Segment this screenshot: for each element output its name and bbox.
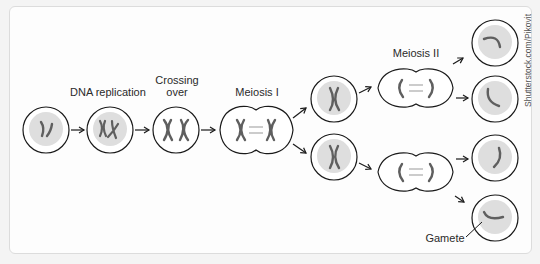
label-meiosis-1: Meiosis I: [227, 86, 287, 98]
gamete-cell-4: [472, 195, 518, 241]
meiosis-diagram: [0, 0, 540, 264]
arrow-icon: [359, 163, 371, 169]
arrow-icon: [455, 196, 464, 202]
arrow-icon: [453, 58, 463, 64]
meiosis-2-cell-top: [378, 69, 453, 107]
label-dna-replication: DNA replication: [70, 86, 146, 98]
gamete-cell-1: [472, 20, 518, 66]
label-crossing-over-line2: over: [152, 86, 202, 98]
label-crossing-over-line1: Crossing: [152, 74, 202, 86]
arrow-icon: [359, 87, 371, 93]
daughter-cell-top: [311, 76, 357, 122]
meiosis-1-cell: [220, 106, 293, 153]
daughter-cell-bottom: [311, 134, 357, 180]
dna-replication-cell: [87, 107, 133, 153]
label-meiosis-2: Meiosis II: [386, 47, 446, 59]
gamete-cell-3: [472, 135, 518, 181]
arrow-icon: [293, 108, 306, 118]
credit-watermark: Shutterstock.com/Pikovit: [523, 14, 533, 107]
label-crossing-over: Crossing over: [152, 74, 202, 98]
label-gamete: Gamete: [425, 232, 465, 244]
crossing-over-cell: [153, 107, 199, 153]
meiosis-2-cell-bottom: [378, 153, 453, 191]
arrow-icon: [293, 144, 306, 153]
gamete-cell-2: [472, 76, 518, 122]
parent-cell: [23, 107, 69, 153]
